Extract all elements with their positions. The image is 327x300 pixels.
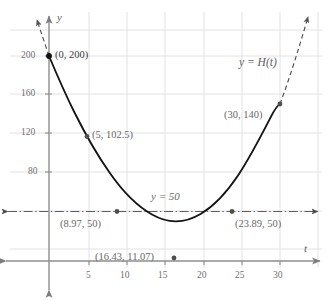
x-tick-label-5: 5	[86, 271, 91, 281]
curve-equation-label: y = H(t)	[239, 57, 277, 69]
y-tick-label-160: 160	[21, 89, 35, 99]
point-label-5-102-5: (5, 102.5)	[92, 130, 133, 141]
chart-canvas	[0, 0, 327, 300]
y-tick-label-120: 120	[21, 128, 35, 138]
y-tick-label-200: 200	[21, 51, 35, 61]
reference-line-label: y = 50	[151, 191, 180, 202]
x-tick-label-10: 10	[120, 271, 130, 281]
marker-y-intercept	[46, 53, 52, 59]
x-tick-label-30: 30	[273, 271, 283, 281]
marker-right-root	[230, 209, 235, 214]
curve-extension-left	[37, 20, 49, 56]
point-label-30-140: (30, 140)	[224, 110, 263, 121]
marker-point-5	[85, 134, 90, 139]
y-axis-label: y	[57, 12, 62, 23]
marker-point-30	[278, 102, 283, 107]
point-label-right-root: (23.89, 50)	[235, 219, 281, 230]
x-axis-label: t	[304, 243, 307, 254]
point-label-vertex: (16.43, 11.07)	[95, 252, 154, 263]
marker-left-root	[115, 209, 120, 214]
marker-vertex	[172, 256, 177, 261]
point-label-y-intercept: (0, 200)	[55, 50, 88, 61]
point-label-left-root: (8.97, 50)	[60, 219, 101, 230]
x-tick-label-15: 15	[158, 271, 168, 281]
x-tick-label-25: 25	[235, 271, 245, 281]
x-tick-label-20: 20	[197, 271, 207, 281]
chart-figure: 200 160 120 80 5 10 15 20 25 30 y t (0, …	[0, 0, 327, 300]
y-tick-label-80: 80	[28, 167, 38, 177]
